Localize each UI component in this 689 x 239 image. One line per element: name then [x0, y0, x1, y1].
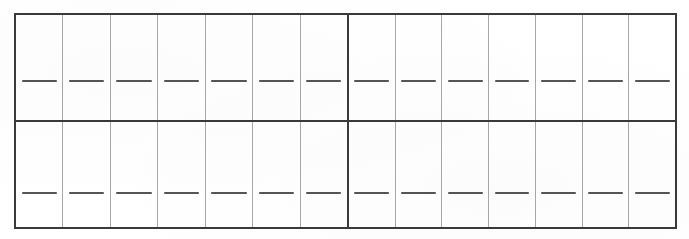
write-on-dash: [635, 192, 670, 194]
cell-r2-c6[interactable]: [253, 122, 300, 227]
top-right-half: [349, 15, 675, 120]
write-on-dash: [541, 80, 576, 82]
write-on-dash: [22, 80, 57, 82]
cell-r2-c9[interactable]: [396, 122, 443, 227]
write-on-dash: [495, 192, 530, 194]
cell-r1-c6[interactable]: [253, 15, 300, 120]
cell-r2-c8[interactable]: [349, 122, 396, 227]
cell-r1-c8[interactable]: [349, 15, 396, 120]
cell-r2-c12[interactable]: [536, 122, 583, 227]
cell-r2-c7[interactable]: [301, 122, 347, 227]
cell-r2-c14[interactable]: [629, 122, 675, 227]
grid-table: [14, 13, 677, 229]
cell-r1-c13[interactable]: [583, 15, 630, 120]
write-on-dash: [69, 80, 104, 82]
top-left-half: [16, 15, 347, 120]
write-on-dash: [401, 80, 436, 82]
page-root: [0, 0, 689, 239]
write-on-dash: [211, 192, 246, 194]
write-on-dash: [541, 192, 576, 194]
write-on-dash: [306, 192, 341, 194]
bottom-left-half: [16, 122, 347, 227]
cell-r1-c3[interactable]: [111, 15, 158, 120]
half-divider: [347, 15, 349, 227]
cell-r2-c4[interactable]: [158, 122, 205, 227]
cell-r2-c1[interactable]: [16, 122, 63, 227]
top-row: [16, 15, 675, 120]
bottom-right-half: [349, 122, 675, 227]
cell-r1-c5[interactable]: [206, 15, 253, 120]
write-on-dash: [588, 80, 623, 82]
write-on-dash: [116, 80, 151, 82]
write-on-dash: [116, 192, 151, 194]
cell-r1-c12[interactable]: [536, 15, 583, 120]
cell-r2-c11[interactable]: [489, 122, 536, 227]
write-on-dash: [635, 80, 670, 82]
cell-r2-c13[interactable]: [583, 122, 630, 227]
write-on-dash: [259, 80, 294, 82]
write-on-dash: [354, 80, 389, 82]
write-on-dash: [164, 80, 199, 82]
write-on-dash: [588, 192, 623, 194]
cell-r1-c2[interactable]: [63, 15, 110, 120]
write-on-dash: [448, 192, 483, 194]
cell-r1-c7[interactable]: [301, 15, 347, 120]
cell-r1-c1[interactable]: [16, 15, 63, 120]
cell-r1-c11[interactable]: [489, 15, 536, 120]
write-on-dash: [22, 192, 57, 194]
cell-r1-c14[interactable]: [629, 15, 675, 120]
write-on-dash: [164, 192, 199, 194]
write-on-dash: [495, 80, 530, 82]
write-on-dash: [259, 192, 294, 194]
cell-r2-c2[interactable]: [63, 122, 110, 227]
write-on-dash: [306, 80, 341, 82]
bottom-row: [16, 122, 675, 227]
cell-r1-c9[interactable]: [396, 15, 443, 120]
cell-r1-c4[interactable]: [158, 15, 205, 120]
write-on-dash: [448, 80, 483, 82]
cell-r2-c10[interactable]: [442, 122, 489, 227]
scanned-sheet: [0, 0, 689, 239]
write-on-dash: [401, 192, 436, 194]
cell-r1-c10[interactable]: [442, 15, 489, 120]
write-on-dash: [354, 192, 389, 194]
cell-r2-c5[interactable]: [206, 122, 253, 227]
cell-r2-c3[interactable]: [111, 122, 158, 227]
write-on-dash: [69, 192, 104, 194]
write-on-dash: [211, 80, 246, 82]
